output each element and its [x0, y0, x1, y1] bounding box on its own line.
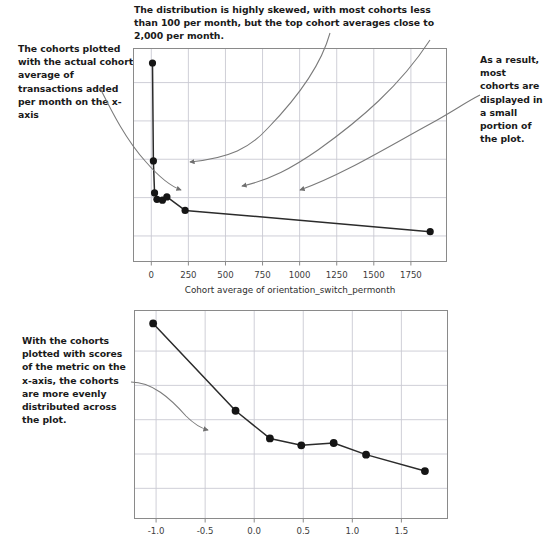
- chart2-gridlines: [135, 311, 448, 519]
- x-tick-label: 1000: [289, 270, 311, 280]
- data-point-marker: [362, 451, 370, 459]
- chart1-x-tickmarks: [151, 262, 411, 266]
- chart1-data-markers: [149, 59, 434, 235]
- data-point-marker: [297, 441, 305, 449]
- x-tick-label: 0: [149, 270, 154, 280]
- figure-page: The distribution is highly skewed, with …: [0, 0, 547, 542]
- x-tick-label: 750: [254, 270, 270, 280]
- figure-canvas: 02505007501000125015001750 Cohort averag…: [0, 0, 547, 542]
- x-tick-label: 1500: [363, 270, 385, 280]
- chart2-plot-frame: [135, 311, 448, 519]
- data-point-marker: [163, 193, 170, 200]
- chart2-data-line: [153, 323, 425, 471]
- x-tick-label: 1.5: [395, 526, 409, 536]
- x-tick-label: 1250: [326, 270, 348, 280]
- data-point-marker: [330, 439, 338, 447]
- data-point-marker: [182, 207, 189, 214]
- data-point-marker: [149, 320, 157, 328]
- x-tick-label: 1.0: [345, 526, 359, 536]
- x-tick-label: -0.5: [197, 526, 214, 536]
- x-tick-label: 0.0: [247, 526, 261, 536]
- connector-arrow-evenly-distributed: [131, 382, 208, 430]
- x-tick-label: -1.0: [148, 526, 165, 536]
- x-tick-label: 1750: [400, 270, 422, 280]
- data-point-marker: [149, 59, 156, 66]
- chart1-x-axis-title: Cohort average of orientation_switch_per…: [185, 285, 395, 295]
- x-tick-label: 250: [180, 270, 196, 280]
- connector-arrow-small-portion: [300, 95, 480, 190]
- chart2-data-markers: [149, 320, 429, 475]
- chart-cohort-average-transactions: 02505007501000125015001750 Cohort averag…: [134, 49, 447, 296]
- chart2-x-ticklabels: -1.0-0.50.00.51.01.5: [148, 526, 409, 536]
- data-point-marker: [232, 407, 240, 415]
- chart2-x-tickmarks: [156, 519, 401, 523]
- chart1-x-ticklabels: 02505007501000125015001750: [149, 270, 422, 280]
- connector-arrow-cohorts-actual: [100, 88, 181, 190]
- connector-arrow-distribution-2: [242, 40, 430, 186]
- data-point-marker: [266, 435, 274, 443]
- data-point-marker: [427, 228, 434, 235]
- x-tick-label: 500: [217, 270, 233, 280]
- x-tick-label: 0.5: [296, 526, 310, 536]
- data-point-marker: [150, 157, 157, 164]
- data-point-marker: [421, 467, 429, 475]
- connector-arrow-distribution: [190, 33, 330, 162]
- data-point-marker: [151, 189, 158, 196]
- chart-cohort-metric-score: -1.0-0.50.00.51.01.5: [135, 311, 448, 536]
